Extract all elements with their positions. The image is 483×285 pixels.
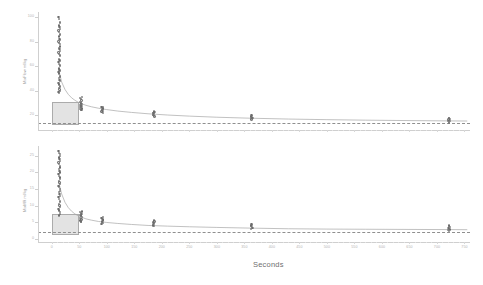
- data-point: [102, 112, 104, 114]
- x-tick-minor: [57, 130, 58, 131]
- x-tick-minor: [305, 130, 306, 131]
- data-point: [58, 214, 60, 216]
- x-tick-minor: [184, 242, 185, 243]
- y-tick: [35, 206, 38, 207]
- x-tick-minor: [288, 242, 289, 243]
- y-tick: [35, 222, 38, 223]
- x-tick-label: 350: [234, 246, 254, 250]
- x-tick-minor: [200, 242, 201, 243]
- x-tick-label: 0: [42, 246, 62, 250]
- x-tick-minor: [442, 242, 443, 243]
- x-tick-minor: [283, 242, 284, 243]
- y-tick-label: 80: [16, 40, 34, 44]
- chart-panel-bottom: [38, 146, 470, 242]
- x-tick-minor: [371, 242, 372, 243]
- x-tick: [354, 130, 355, 132]
- x-tick-minor: [255, 242, 256, 243]
- x-tick: [189, 242, 190, 244]
- x-tick: [244, 242, 245, 244]
- y-tick-label: 40: [16, 89, 34, 93]
- y-tick: [35, 66, 38, 67]
- x-tick-label: 450: [289, 246, 309, 250]
- x-tick: [299, 242, 300, 244]
- x-tick-minor: [343, 242, 344, 243]
- y-tick: [35, 115, 38, 116]
- x-tick-minor: [222, 242, 223, 243]
- x-tick-minor: [420, 130, 421, 131]
- x-tick-minor: [173, 130, 174, 131]
- x-tick-minor: [365, 242, 366, 243]
- x-tick-minor: [222, 130, 223, 131]
- x-tick-minor: [233, 242, 234, 243]
- y-tick-label: 20: [16, 170, 34, 174]
- x-tick: [79, 130, 80, 132]
- x-tick-minor: [371, 130, 372, 131]
- x-tick-minor: [376, 130, 377, 131]
- x-tick-minor: [431, 242, 432, 243]
- x-tick-minor: [393, 130, 394, 131]
- data-point: [100, 223, 102, 225]
- x-tick-minor: [338, 130, 339, 131]
- x-tick: [134, 130, 135, 132]
- x-tick: [189, 130, 190, 132]
- x-axis-title: Seconds: [253, 260, 284, 269]
- x-tick-minor: [233, 130, 234, 131]
- x-tick-minor: [365, 130, 366, 131]
- plot-area-top: [38, 12, 470, 130]
- x-tick-label: 200: [152, 246, 172, 250]
- x-tick-minor: [266, 242, 267, 243]
- x-tick-minor: [228, 130, 229, 131]
- x-tick-minor: [338, 242, 339, 243]
- y-tick: [35, 17, 38, 18]
- x-tick-minor: [145, 130, 146, 131]
- x-tick-minor: [349, 242, 350, 243]
- chart-panel-top: [38, 12, 470, 130]
- x-tick: [162, 130, 163, 132]
- x-tick-minor: [118, 242, 119, 243]
- x-tick-minor: [255, 130, 256, 131]
- x-tick-minor: [129, 130, 130, 131]
- x-tick: [272, 242, 273, 244]
- x-tick: [79, 242, 80, 244]
- x-tick-label: 600: [372, 246, 392, 250]
- x-tick-minor: [63, 242, 64, 243]
- x-tick-minor: [178, 242, 179, 243]
- x-tick: [52, 130, 53, 132]
- x-tick: [299, 130, 300, 132]
- x-tick-minor: [140, 130, 141, 131]
- x-tick-minor: [420, 242, 421, 243]
- y-tick: [35, 156, 38, 157]
- x-tick-minor: [211, 242, 212, 243]
- x-tick-minor: [96, 242, 97, 243]
- x-tick-minor: [156, 130, 157, 131]
- x-tick: [272, 130, 273, 132]
- x-tick-minor: [393, 242, 394, 243]
- x-tick-minor: [453, 130, 454, 131]
- x-axis-line: [38, 130, 470, 131]
- y-tick-label: 0: [16, 237, 34, 241]
- y-tick-label: 5: [16, 220, 34, 224]
- x-tick: [464, 242, 465, 244]
- x-tick: [52, 242, 53, 244]
- data-point: [153, 115, 155, 117]
- x-tick-minor: [195, 130, 196, 131]
- x-tick: [107, 242, 108, 244]
- x-tick-minor: [459, 130, 460, 131]
- x-tick-minor: [90, 130, 91, 131]
- x-tick-label: 100: [97, 246, 117, 250]
- x-tick-minor: [310, 242, 311, 243]
- x-tick-minor: [321, 130, 322, 131]
- x-tick-minor: [195, 242, 196, 243]
- x-tick-minor: [261, 130, 262, 131]
- y-tick-label: 20: [16, 113, 34, 117]
- data-point: [250, 228, 252, 230]
- x-tick-minor: [228, 242, 229, 243]
- x-tick-minor: [448, 130, 449, 131]
- x-tick-minor: [151, 242, 152, 243]
- x-tick-label: 550: [344, 246, 364, 250]
- x-tick-minor: [349, 130, 350, 131]
- x-tick-minor: [178, 130, 179, 131]
- x-tick-minor: [206, 130, 207, 131]
- x-tick-minor: [277, 242, 278, 243]
- x-tick: [382, 242, 383, 244]
